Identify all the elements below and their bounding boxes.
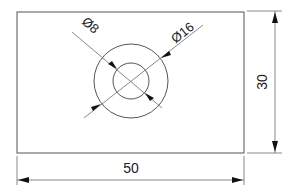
d16-label: Ø16 — [168, 19, 197, 46]
width-arrow-left — [18, 177, 29, 183]
width-label: 50 — [123, 160, 139, 176]
height-arrow-bottom — [272, 141, 278, 152]
part-outline — [17, 12, 244, 153]
d16-arrow-start — [91, 104, 101, 111]
height-arrow-top — [272, 12, 278, 23]
d8-label: Ø8 — [79, 14, 102, 37]
technical-drawing: Ø8 Ø16 30 50 — [0, 0, 293, 193]
width-arrow-right — [232, 177, 243, 183]
height-label: 30 — [254, 74, 270, 90]
d8-arrow-start — [108, 61, 117, 69]
d16-arrow-end — [161, 51, 171, 58]
